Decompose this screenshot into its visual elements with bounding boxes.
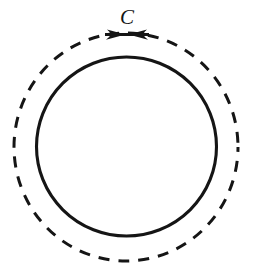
figure-canvas: C <box>0 0 253 273</box>
diagram-svg: C <box>0 0 253 273</box>
arrow-connector-bar <box>105 33 149 36</box>
contour-label-c: C <box>120 5 135 29</box>
